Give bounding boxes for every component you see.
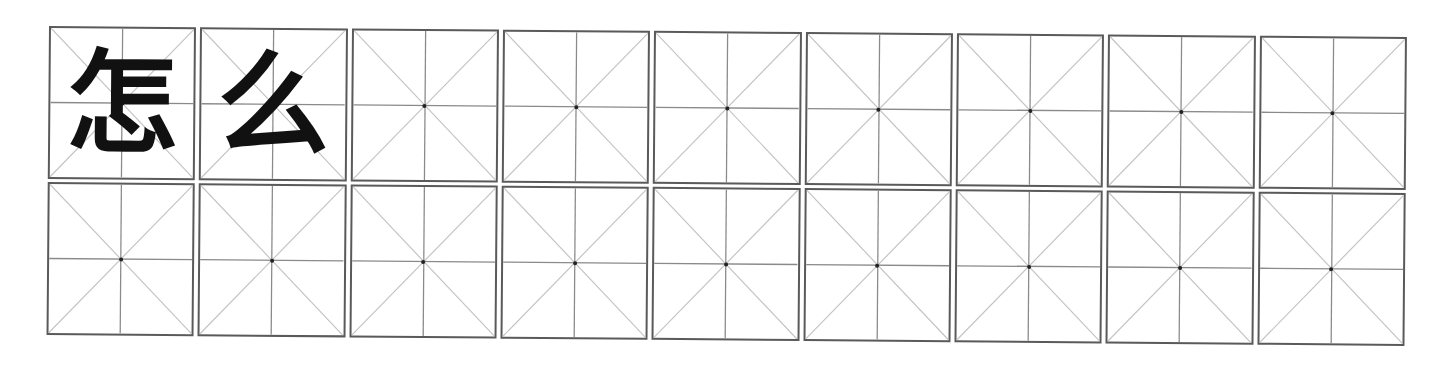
practice-cell [804, 32, 953, 186]
practice-character [49, 184, 194, 334]
practice-character: 怎 [50, 28, 195, 178]
practice-character [503, 188, 648, 338]
practice-cell [1257, 192, 1406, 346]
practice-cell [350, 28, 499, 182]
practice-cell [1258, 36, 1407, 190]
practice-cell [198, 183, 347, 337]
practice-cell: 怎 [48, 26, 197, 180]
practice-character [352, 30, 497, 180]
practice-cell [349, 184, 498, 338]
practice-cell [502, 30, 651, 184]
grid-row: 怎么 [48, 26, 1411, 190]
practice-character [351, 186, 496, 336]
practice-character [1109, 37, 1254, 187]
practice-cell [47, 182, 196, 336]
practice-character [1260, 38, 1405, 188]
practice-sheet: 怎么 [46, 26, 1410, 349]
practice-cell [653, 31, 802, 185]
practice-character [806, 34, 951, 184]
practice-cell [954, 189, 1103, 343]
practice-character [1259, 194, 1404, 344]
practice-character [805, 190, 950, 340]
practice-cell [956, 33, 1105, 187]
practice-character [200, 185, 345, 335]
practice-cell [500, 186, 649, 340]
practice-character [504, 32, 649, 182]
practice-cell [1107, 35, 1256, 189]
practice-character [1108, 193, 1253, 343]
practice-character [958, 35, 1103, 185]
practice-cell: 么 [199, 27, 348, 181]
practice-character [654, 189, 799, 339]
practice-character [655, 33, 800, 183]
practice-cell [803, 188, 952, 342]
practice-character [956, 191, 1101, 341]
practice-character: 么 [201, 29, 346, 179]
practice-cell [1106, 190, 1255, 344]
practice-cell [652, 187, 801, 341]
grid-row [47, 182, 1410, 346]
